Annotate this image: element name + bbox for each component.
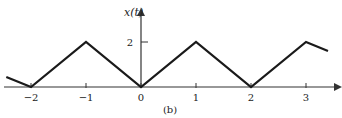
- triangle-wave-chart: −2−101232 x(t) (b): [0, 0, 342, 118]
- axes: [4, 12, 338, 87]
- ticks: −2−101232: [24, 37, 310, 103]
- data-series-line: [6, 42, 328, 87]
- x-tick-label: 1: [193, 92, 199, 103]
- x-tick-label: −2: [24, 92, 39, 103]
- y-axis-label: x(t): [124, 6, 143, 19]
- x-tick-label: 2: [248, 92, 254, 103]
- y-tick-label: 2: [127, 37, 133, 48]
- x-tick-label: 3: [303, 92, 309, 103]
- x-tick-label: 0: [138, 92, 144, 103]
- figure-caption: (b): [163, 104, 177, 115]
- x-tick-label: −1: [79, 92, 94, 103]
